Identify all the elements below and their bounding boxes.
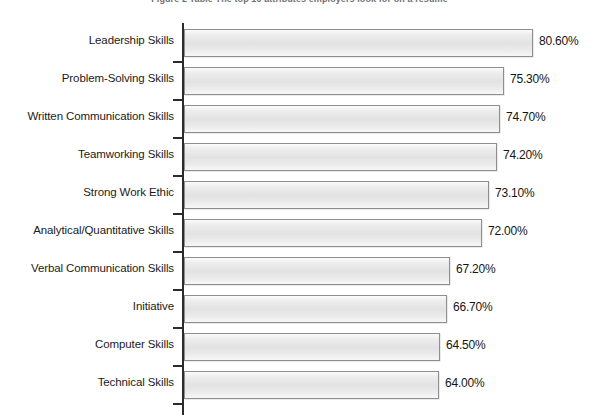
bar-value-label: 64.50%	[446, 338, 486, 352]
bar-row: Written Communication Skills74.70%	[0, 101, 599, 139]
bar	[184, 333, 440, 361]
category-label: Initiative	[133, 300, 174, 312]
chart-title-clipped: Figure 2 Table The top 10 attributes emp…	[0, 0, 599, 7]
figure-container: Figure 2 Table The top 10 attributes emp…	[0, 0, 599, 415]
bar-row: Strong Work Ethic73.10%	[0, 177, 599, 215]
axis-tick	[173, 61, 183, 63]
category-label: Analytical/Quantitative Skills	[33, 224, 174, 236]
bar-value-label: 80.60%	[539, 34, 579, 48]
category-label: Leadership Skills	[89, 34, 174, 46]
bar-row: Teamworking Skills74.20%	[0, 139, 599, 177]
category-label: Written Communication Skills	[27, 110, 174, 122]
axis-tick	[173, 99, 183, 101]
category-label: Computer Skills	[95, 338, 174, 350]
axis-tick	[173, 365, 183, 367]
bar-row: Verbal Communication Skills67.20%	[0, 253, 599, 291]
bar-value-label: 66.70%	[453, 300, 493, 314]
category-label: Strong Work Ethic	[83, 186, 174, 198]
bar	[184, 257, 450, 285]
axis-tick	[173, 289, 183, 291]
bar-wrapper	[184, 67, 504, 95]
bar-wrapper	[184, 29, 533, 57]
chart-title: Figure 2 Table The top 10 attributes emp…	[0, 0, 599, 4]
bar-wrapper	[184, 295, 447, 323]
bar	[184, 67, 504, 95]
axis-tick	[173, 175, 183, 177]
axis-tick	[173, 251, 183, 253]
bar-value-label: 74.70%	[506, 110, 546, 124]
bar-wrapper	[184, 371, 439, 399]
bar-row: Initiative66.70%	[0, 291, 599, 329]
bar-row: Technical Skills64.00%	[0, 367, 599, 405]
bar-wrapper	[184, 333, 440, 361]
bar-chart-plot-area: Leadership Skills80.60%Problem-Solving S…	[0, 7, 599, 415]
axis-tick	[173, 403, 183, 405]
bar-value-label: 73.10%	[495, 186, 535, 200]
category-label: Verbal Communication Skills	[31, 262, 174, 274]
bar-value-label: 72.00%	[488, 224, 528, 238]
bar	[184, 105, 500, 133]
bar	[184, 295, 447, 323]
bar	[184, 371, 439, 399]
bar-wrapper	[184, 143, 497, 171]
bar-row: Analytical/Quantitative Skills72.00%	[0, 215, 599, 253]
bar	[184, 29, 533, 57]
bar-wrapper	[184, 105, 500, 133]
bar-value-label: 74.20%	[503, 148, 543, 162]
bar	[184, 181, 489, 209]
axis-tick	[173, 213, 183, 215]
bar-value-label: 64.00%	[445, 376, 485, 390]
bar-value-label: 67.20%	[456, 262, 496, 276]
category-label: Problem-Solving Skills	[62, 72, 174, 84]
category-label: Technical Skills	[98, 376, 174, 388]
bar-wrapper	[184, 257, 450, 285]
bar-row: Computer Skills64.50%	[0, 329, 599, 367]
axis-tick	[173, 327, 183, 329]
bar-row: Leadership Skills80.60%	[0, 25, 599, 63]
category-label: Teamworking Skills	[78, 148, 174, 160]
bar-wrapper	[184, 219, 482, 247]
bar	[184, 219, 482, 247]
bar-wrapper	[184, 181, 489, 209]
axis-tick	[173, 137, 183, 139]
bar-value-label: 75.30%	[510, 72, 550, 86]
bar	[184, 143, 497, 171]
bar-row: Problem-Solving Skills75.30%	[0, 63, 599, 101]
